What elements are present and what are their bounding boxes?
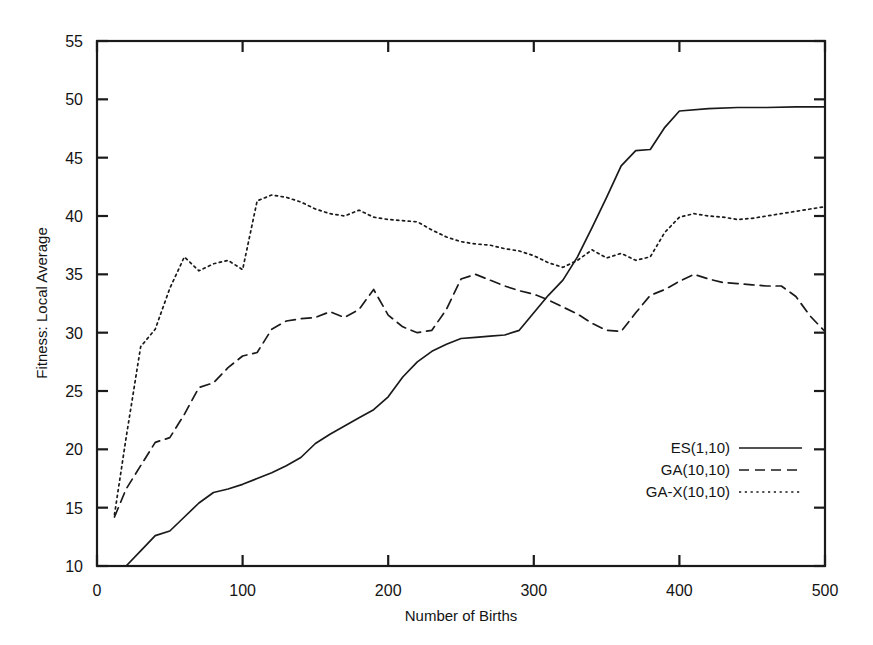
y-tick-label: 10 (65, 558, 83, 575)
legend-label-1: ES(1,10) (671, 439, 730, 456)
x-tick-label: 500 (812, 582, 839, 599)
x-axis-label: Number of Births (405, 607, 518, 624)
legend-label-3: GA-X(10,10) (646, 483, 730, 500)
y-tick-label: 30 (65, 325, 83, 342)
x-tick-label: 200 (375, 582, 402, 599)
fitness-vs-births-chart: 10152025303540455055 0100200300400500 Fi… (0, 0, 873, 645)
y-tick-label: 20 (65, 441, 83, 458)
y-tick-label: 45 (65, 150, 83, 167)
y-tick-label: 25 (65, 383, 83, 400)
x-tick-label: 0 (93, 582, 102, 599)
x-tick-label: 100 (229, 582, 256, 599)
y-axis-label: Fitness: Local Average (33, 227, 50, 378)
y-tick-label: 40 (65, 208, 83, 225)
y-tick-label: 15 (65, 500, 83, 517)
y-tick-label: 50 (65, 91, 83, 108)
chart-background (0, 0, 873, 645)
x-tick-label: 400 (666, 582, 693, 599)
y-tick-label: 55 (65, 33, 83, 50)
legend-label-2: GA(10,10) (661, 461, 730, 478)
x-tick-label: 300 (520, 582, 547, 599)
y-tick-label: 35 (65, 266, 83, 283)
